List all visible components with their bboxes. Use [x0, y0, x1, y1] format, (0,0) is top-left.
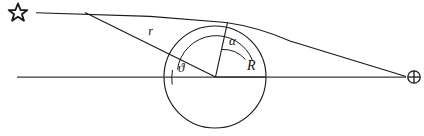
label-theta: ϑ [178, 61, 184, 74]
diagram-canvas [0, 0, 424, 136]
label-alpha: α [229, 34, 236, 47]
angle-arc-alpha [222, 49, 246, 59]
incoming-ray-from-star [36, 13, 226, 23]
earth-icon [408, 71, 420, 83]
refraction-diagram: r α ϑ R [0, 0, 424, 136]
label-capital-r: R [247, 59, 256, 73]
star-icon [9, 4, 28, 21]
